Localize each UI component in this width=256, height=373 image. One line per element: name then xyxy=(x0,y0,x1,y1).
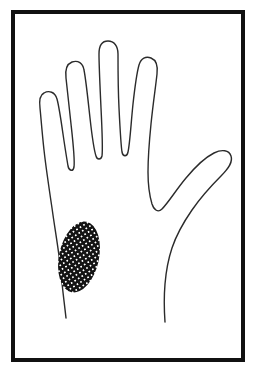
hand-figure-svg xyxy=(0,0,256,373)
figure-root xyxy=(0,0,256,373)
page-artifact-text xyxy=(4,363,30,370)
